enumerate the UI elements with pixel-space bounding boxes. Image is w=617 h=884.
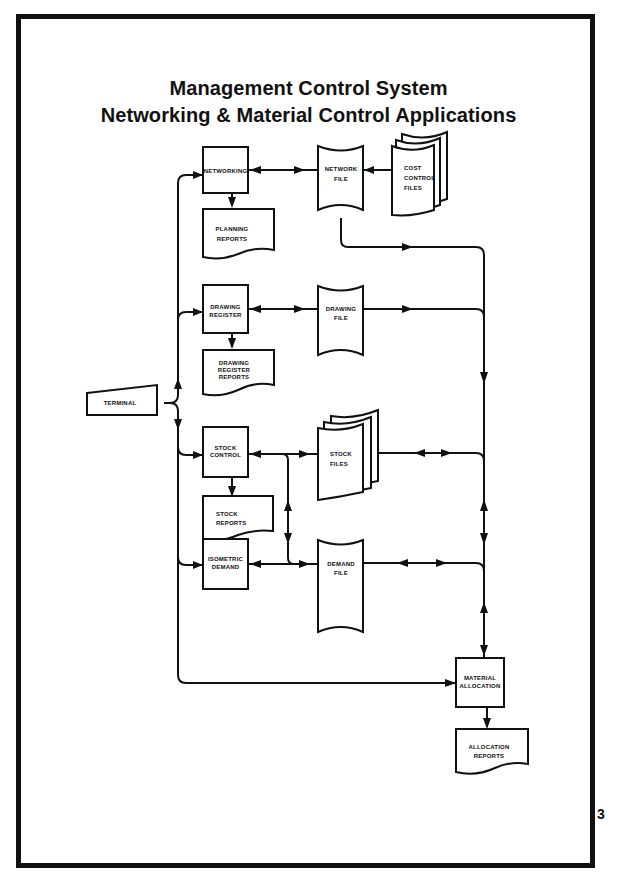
arrow-right-icon — [193, 308, 203, 316]
cost-files-label-2: CONTROL — [404, 175, 435, 181]
arrow-down-icon — [480, 645, 488, 656]
arrow-left-icon — [250, 305, 261, 313]
isometric-demand-label-2: DEMAND — [212, 564, 240, 570]
arrow-right-icon — [402, 305, 413, 313]
material-allocation-label-1: MATERIAL — [464, 675, 496, 681]
arrow-left-icon — [414, 449, 425, 457]
stock-files-label-1: STOCK — [330, 451, 352, 457]
drawing-file-label-2: FILE — [334, 315, 348, 321]
demand-file-node: DEMAND FILE — [318, 540, 363, 632]
arrow-up-icon — [480, 499, 488, 511]
stock-files-label-2: FILES — [330, 461, 348, 467]
drawing-file-label-1: DRAWING — [326, 306, 357, 312]
arrow-right-icon — [294, 166, 305, 174]
drawing-file-to-bus-line — [363, 309, 484, 317]
arrow-right-icon — [299, 560, 310, 568]
planning-reports-label-1: PLANNING — [216, 226, 249, 232]
arrow-down-icon — [284, 533, 292, 544]
network-file-node: NETWORK FILE — [318, 146, 363, 210]
terminal-bus-line — [164, 175, 203, 403]
demand-file-label-1: DEMAND — [327, 561, 355, 567]
arrow-right-icon — [445, 679, 456, 687]
arrow-right-icon — [299, 450, 310, 458]
allocation-reports-label-1: ALLOCATION — [469, 744, 510, 750]
arrow-right-icon — [193, 561, 203, 569]
terminal-label: TERMINAL — [104, 400, 137, 406]
drawing-register-label-1: DRAWING — [210, 304, 241, 310]
isometric-demand-node: ISOMETRIC DEMAND — [203, 539, 248, 589]
planning-reports-label-2: REPORTS — [217, 236, 247, 242]
arrow-right-icon — [294, 305, 305, 313]
stock-files-node: STOCK FILES — [318, 410, 378, 500]
arrow-down-icon — [483, 718, 491, 729]
cost-files-label-1: COST — [404, 165, 422, 171]
stock-control-label-2: CONTROL — [210, 452, 241, 458]
isometric-demand-label-1: ISOMETRIC — [208, 556, 244, 562]
demand-file-shape — [318, 540, 363, 632]
stock-control-label-1: STOCK — [215, 445, 237, 451]
arrow-down-icon — [174, 419, 182, 430]
demand-file-to-bus-line — [363, 563, 484, 571]
material-allocation-node: MATERIAL ALLOCATION — [456, 658, 504, 707]
arrow-down-icon — [228, 197, 236, 208]
network-file-label-2: FILE — [334, 176, 348, 182]
flowchart: TERMINAL NETWORKING PLANNING REPORTS NET… — [0, 0, 617, 884]
stock-files-to-bus-line — [378, 453, 484, 461]
arrow-left-icon — [250, 450, 261, 458]
networking-node: NETWORKING — [203, 147, 248, 193]
terminal-node: TERMINAL — [87, 385, 157, 415]
planning-reports-document — [203, 209, 274, 258]
arrow-left-icon — [397, 559, 408, 567]
arrow-up-icon — [174, 378, 182, 389]
arrow-right-icon — [436, 559, 447, 567]
arrow-right-icon — [193, 451, 203, 459]
drawing-register-reports-label-1: DRAWING — [219, 360, 250, 366]
stock-reports-document — [203, 496, 273, 540]
stock-reports-label-2: REPORTS — [216, 520, 246, 526]
arrow-left-icon — [364, 166, 374, 174]
cost-control-files-node: COST CONTROL FILES — [392, 132, 447, 215]
drawing-register-reports-label-3: REPORTS — [219, 374, 249, 380]
arrow-right-icon — [402, 243, 413, 251]
networking-label: NETWORKING — [204, 168, 248, 174]
drawing-register-label-2: REGISTER — [209, 312, 242, 318]
cost-files-label-3: FILES — [404, 185, 422, 191]
drawing-register-reports-label-2: REGISTER — [218, 367, 251, 373]
arrow-left-icon — [250, 560, 261, 568]
page-margin-mark: 3 — [597, 806, 605, 822]
stock-reports-label-1: STOCK — [216, 511, 238, 517]
allocation-reports-node: ALLOCATION REPORTS — [456, 729, 528, 774]
arrow-up-icon — [480, 602, 488, 613]
arrow-right-icon — [193, 171, 203, 179]
stock-control-node: STOCK CONTROL — [203, 427, 248, 477]
planning-reports-node: PLANNING REPORTS — [203, 209, 274, 258]
stock-reports-node: STOCK REPORTS — [203, 496, 273, 540]
network-file-label-1: NETWORK — [325, 166, 358, 172]
drawing-register-node: DRAWING REGISTER — [203, 285, 248, 333]
allocation-reports-document — [456, 729, 528, 774]
arrow-left-icon — [250, 166, 261, 174]
arrow-down-icon — [480, 533, 488, 545]
arrow-up-icon — [284, 500, 292, 511]
arrow-down-icon — [480, 372, 488, 384]
arrow-down-icon — [228, 338, 236, 349]
drawing-file-node: DRAWING FILE — [318, 286, 363, 355]
demand-file-label-2: FILE — [334, 570, 348, 576]
arrow-right-icon — [441, 449, 452, 457]
material-allocation-label-2: ALLOCATION — [460, 683, 501, 689]
drawing-register-reports-node: DRAWING REGISTER REPORTS — [203, 350, 274, 395]
allocation-reports-label-2: REPORTS — [474, 753, 504, 759]
